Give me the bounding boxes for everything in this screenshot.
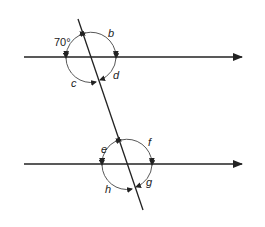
angle-f-label: f [148, 136, 152, 148]
angle-c-label: c [71, 77, 77, 89]
angle-g-label: g [146, 176, 153, 188]
transversal-line [78, 19, 143, 210]
angle-e-label: e [101, 143, 107, 155]
angle-h-label: h [105, 183, 111, 195]
angle-70-label: 70° [54, 36, 71, 48]
angle-b-label: b [108, 27, 114, 39]
angle-diagram: 70° b c d e f g h [0, 0, 265, 227]
angle-d-label: d [113, 69, 120, 81]
